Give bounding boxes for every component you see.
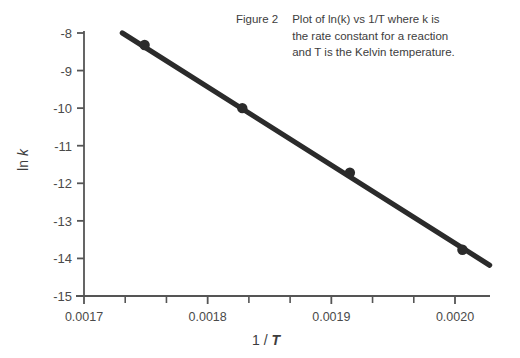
x-axis-title-prefix: 1 / [252, 332, 271, 348]
y-axis-title-prefix: ln [15, 156, 31, 171]
y-tick-label: -11 [28, 138, 72, 153]
data-point [345, 168, 355, 178]
trend-line [122, 33, 489, 265]
y-tick-label: -14 [28, 251, 72, 266]
data-point [457, 245, 467, 255]
x-tick-label: 0.0017 [49, 310, 119, 324]
x-tick-label: 0.0020 [420, 310, 490, 324]
y-tick-label: -10 [28, 101, 72, 116]
y-axis-title: ln k [15, 149, 31, 171]
data-point [237, 103, 247, 113]
axes [76, 31, 490, 296]
y-tick-label: -12 [28, 176, 72, 191]
y-tick-label: -13 [28, 213, 72, 228]
x-axis-title-symbol: T [271, 332, 280, 348]
x-tick-label: 0.0018 [173, 310, 243, 324]
chart-svg [0, 0, 520, 358]
y-axis-title-symbol: k [15, 149, 31, 156]
data-series [122, 33, 489, 265]
x-axis-title: 1 / T [252, 332, 280, 348]
data-point [139, 40, 149, 50]
figure-container: Figure 2 Plot of ln(k) vs 1/T where k is… [0, 0, 520, 358]
y-tick-label: -15 [28, 289, 72, 304]
tick-marks [77, 33, 455, 304]
x-tick-label: 0.0019 [296, 310, 366, 324]
y-tick-label: -9 [28, 63, 72, 78]
y-tick-label: -8 [28, 26, 72, 41]
plot-area: -8-9-10-11-12-13-14-15 0.00170.00180.001… [0, 0, 520, 358]
